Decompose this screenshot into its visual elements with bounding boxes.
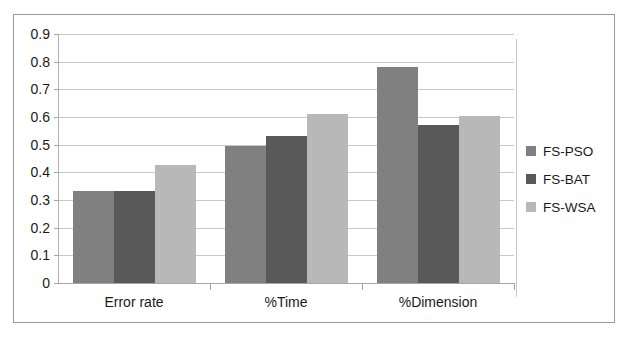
chart-legend: FS-PSOFS-BATFS-WSA: [526, 137, 596, 221]
y-axis-tick-mark: [54, 172, 59, 173]
y-axis-tick-label: 0.9: [31, 26, 50, 42]
y-axis-tick-label: 0.6: [31, 109, 50, 125]
legend-label: FS-BAT: [543, 172, 590, 187]
y-axis-tick-label: 0.8: [31, 54, 50, 70]
legend-swatch-icon: [526, 202, 536, 212]
legend-swatch-icon: [526, 174, 536, 184]
y-axis-line: [58, 34, 59, 283]
bar[interactable]: [307, 114, 348, 283]
legend-label: FS-WSA: [543, 200, 596, 215]
bar-group: [377, 34, 500, 283]
bar-group: [73, 34, 196, 283]
chart-frame: 0.90.80.70.60.50.40.30.20.10 Error rate%…: [13, 14, 615, 323]
y-axis-tick-mark: [54, 255, 59, 256]
legend-item-fs-bat[interactable]: FS-BAT: [526, 165, 596, 193]
bar[interactable]: [225, 146, 266, 283]
y-axis-tick-mark: [54, 145, 59, 146]
plot-area: 0.90.80.70.60.50.40.30.20.10 Error rate%…: [58, 34, 514, 283]
y-axis-tick-mark: [54, 228, 59, 229]
y-axis-tick-mark: [54, 62, 59, 63]
y-axis-tick-label: 0.5: [31, 137, 50, 153]
y-axis-tick-mark: [54, 283, 59, 284]
x-axis-end-tick: [514, 283, 515, 290]
bar[interactable]: [114, 191, 155, 283]
bar[interactable]: [377, 67, 418, 283]
y-axis-tick-label: 0.7: [31, 81, 50, 97]
category-separator: [362, 283, 363, 290]
legend-swatch-icon: [526, 146, 536, 156]
bar[interactable]: [73, 191, 114, 283]
bar[interactable]: [418, 125, 459, 283]
y-axis-tick-label: 0.2: [31, 220, 50, 236]
x-axis-category-label: %Dimension: [399, 294, 478, 310]
legend-divider: [516, 39, 517, 297]
y-axis-tick-label: 0.1: [31, 247, 50, 263]
bar[interactable]: [266, 136, 307, 283]
legend-label: FS-PSO: [543, 144, 593, 159]
y-axis-tick-label: 0.3: [31, 192, 50, 208]
scan-top-artifact: [0, 0, 633, 10]
y-axis-tick-mark: [54, 117, 59, 118]
x-axis-category-label: Error rate: [104, 294, 163, 310]
gridline: [58, 283, 514, 284]
bar-group: [225, 34, 348, 283]
bar[interactable]: [155, 165, 196, 283]
y-axis-tick-mark: [54, 89, 59, 90]
x-axis-category-label: %Time: [264, 294, 307, 310]
y-axis-tick-mark: [54, 34, 59, 35]
category-separator: [210, 283, 211, 290]
y-axis-tick-mark: [54, 200, 59, 201]
y-axis-tick-label: 0.4: [31, 164, 50, 180]
bar[interactable]: [459, 116, 500, 283]
y-axis-tick-label: 0: [42, 275, 50, 291]
legend-item-fs-pso[interactable]: FS-PSO: [526, 137, 596, 165]
legend-item-fs-wsa[interactable]: FS-WSA: [526, 193, 596, 221]
